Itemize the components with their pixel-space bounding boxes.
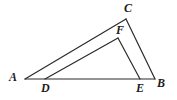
vertex-label-b: B xyxy=(157,77,165,89)
vertex-label-f: F xyxy=(116,24,124,36)
segment-DF xyxy=(45,38,118,79)
segment-FE xyxy=(118,38,140,79)
geometry-diagram-canvas xyxy=(0,0,177,100)
segment-group xyxy=(25,19,155,79)
vertex-label-c: C xyxy=(124,2,132,14)
vertex-label-e: E xyxy=(136,82,144,94)
geometry-figure: A B C D E F xyxy=(0,0,177,100)
vertex-label-a: A xyxy=(9,71,17,83)
segment-CB xyxy=(126,19,155,79)
segment-AC xyxy=(25,19,126,79)
vertex-label-d: D xyxy=(41,82,50,94)
